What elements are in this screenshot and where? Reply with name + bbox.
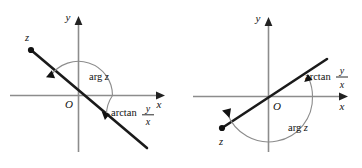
z-ray-line	[31, 50, 147, 148]
arg-z-label-variable: z	[303, 122, 308, 133]
arg-z-label: arg z	[89, 71, 109, 82]
diagram-panel-left: y x O z arg z arctan y x	[0, 0, 181, 168]
arctan-denominator: x	[145, 116, 151, 127]
y-axis-label: y	[255, 12, 261, 24]
point-z-marker	[28, 47, 34, 53]
arctan-numerator: y	[145, 103, 151, 114]
arg-z-arc	[227, 97, 312, 142]
y-axis-arrowhead	[75, 16, 83, 25]
origin-label: O	[65, 98, 73, 110]
arg-z-label-text: arg	[89, 71, 103, 82]
z-ray-line	[222, 59, 327, 128]
complex-argument-figure: y x O z arg z arctan y x	[0, 0, 362, 168]
point-z-label: z	[218, 136, 223, 147]
x-axis-label: x	[156, 98, 162, 110]
point-z-label: z	[24, 32, 29, 43]
arg-z-arc-arrowhead	[222, 108, 231, 118]
arg-z-label-variable: z	[104, 71, 109, 82]
y-axis-label: y	[65, 11, 71, 23]
arg-z-label-text: arg	[288, 122, 302, 133]
y-axis-arrowhead	[265, 17, 273, 26]
arctan-numerator: y	[339, 65, 345, 76]
x-axis-label: x	[339, 100, 345, 112]
y-axis-left	[75, 16, 83, 152]
arctan-denominator: x	[339, 79, 345, 90]
diagram-panel-right: y x O z arg z arctan y x	[181, 0, 362, 168]
y-axis-right	[265, 17, 273, 152]
arg-z-label: arg z	[288, 122, 308, 133]
origin-label: O	[273, 100, 281, 112]
arctan-function-label: arctan	[111, 107, 137, 118]
arctan-function-label: arctan	[305, 71, 331, 82]
point-z-marker	[219, 125, 225, 131]
